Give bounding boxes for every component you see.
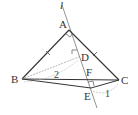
measure-bd: 2: [54, 69, 59, 80]
segment-ab: [22, 30, 69, 79]
label-b: B: [11, 73, 18, 85]
label-l: l: [60, 0, 63, 11]
label-a: A: [59, 18, 67, 30]
label-c: C: [121, 74, 128, 86]
measure-ce: 1: [105, 88, 110, 99]
geometry-diagram: l A B C D F E 2 1: [0, 0, 138, 115]
label-d: D: [81, 51, 89, 63]
segment-ec: [91, 80, 119, 88]
segment-be: [22, 79, 91, 88]
segment-bc: [22, 79, 119, 80]
line-l: [62, 5, 97, 108]
label-f: F: [86, 66, 92, 78]
segment-bd: [22, 57, 79, 79]
label-e: E: [84, 90, 91, 102]
right-angle-d: [72, 50, 77, 54]
